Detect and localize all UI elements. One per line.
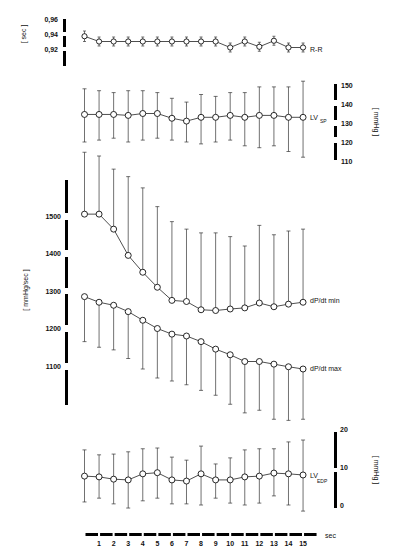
data-point xyxy=(82,34,87,39)
x-tick-label: 11 xyxy=(241,540,249,547)
data-point xyxy=(256,473,262,479)
unit-label: [ mmHg ] xyxy=(372,108,380,136)
data-point xyxy=(169,297,175,303)
data-point xyxy=(242,114,248,120)
y-tick-label: 1500 xyxy=(45,213,61,220)
data-point xyxy=(82,111,88,117)
series-line xyxy=(85,297,304,369)
axis-scale-bar xyxy=(65,220,68,250)
rr-interval-panel: 0,960,940,92[ sec ]R-R xyxy=(20,16,322,67)
x-tick-label: 4 xyxy=(141,540,145,547)
x-tick-label: 2 xyxy=(112,540,116,547)
time-axis-segment xyxy=(144,533,157,536)
data-point xyxy=(198,471,204,477)
data-point xyxy=(111,302,117,308)
series-line xyxy=(85,36,304,47)
y-tick-label: 10 xyxy=(340,464,348,471)
data-point xyxy=(111,111,117,117)
axis-scale-bar xyxy=(334,143,337,160)
data-point xyxy=(257,44,262,49)
data-point xyxy=(111,226,117,232)
series-line xyxy=(85,114,304,122)
axis-scale-bar xyxy=(334,126,337,137)
data-point xyxy=(125,477,131,483)
data-point xyxy=(154,284,160,290)
time-axis-segment xyxy=(217,533,230,536)
y-tick-label: 1400 xyxy=(45,250,61,257)
dpdt-panel: 15001400130012001100[ mmHg/sec ]dP/dt mi… xyxy=(22,152,342,420)
data-point xyxy=(242,305,248,311)
axis-scale-bar xyxy=(334,106,337,120)
data-point xyxy=(82,294,88,300)
data-point xyxy=(285,301,291,307)
y-tick-label: 0,92 xyxy=(44,46,58,54)
data-point xyxy=(256,300,262,306)
x-tick-label: 9 xyxy=(214,540,218,547)
data-point xyxy=(125,252,131,258)
time-axis-segment xyxy=(304,533,317,536)
x-tick-label: 15 xyxy=(299,540,307,547)
data-point xyxy=(300,45,305,50)
data-point xyxy=(300,114,306,120)
data-point xyxy=(111,476,117,482)
data-point xyxy=(140,269,146,275)
data-point xyxy=(169,331,175,337)
data-point xyxy=(198,114,204,120)
data-point xyxy=(198,339,204,345)
data-point xyxy=(183,478,189,484)
y-tick-label: 1200 xyxy=(45,325,61,332)
data-point xyxy=(300,472,306,478)
data-point xyxy=(96,474,102,480)
data-point xyxy=(213,346,219,352)
data-point xyxy=(271,38,276,43)
data-point xyxy=(213,39,218,44)
data-point xyxy=(256,359,262,365)
data-point xyxy=(227,306,233,312)
x-tick-label: 14 xyxy=(285,540,293,547)
data-point xyxy=(140,39,145,44)
data-point xyxy=(271,112,277,118)
series-line xyxy=(85,214,304,310)
x-tick-label: 1 xyxy=(97,540,101,547)
time-axis-segment xyxy=(289,533,302,536)
data-point xyxy=(184,39,189,44)
data-point xyxy=(183,118,189,124)
data-point xyxy=(154,111,160,117)
data-point xyxy=(126,39,131,44)
unit-label: [ mmHg ] xyxy=(372,456,380,484)
data-point xyxy=(155,39,160,44)
x-tick-label: 6 xyxy=(170,540,174,547)
x-tick-label: 13 xyxy=(270,540,278,547)
time-axis-segment xyxy=(115,533,128,536)
time-axis-segment xyxy=(187,533,200,536)
series-label-lvsp: LV xyxy=(310,114,318,121)
data-point xyxy=(285,114,291,120)
x-tick-label: 5 xyxy=(155,540,159,547)
data-point xyxy=(183,299,189,305)
x-tick-label: 12 xyxy=(255,540,263,547)
unit-label: [ sec ] xyxy=(20,25,28,44)
axis-scale-bar xyxy=(65,332,68,363)
x-tick-label: 7 xyxy=(185,540,189,547)
axis-scale-bar xyxy=(65,257,68,288)
time-axis: 123456789101112131415sec xyxy=(86,532,337,547)
axis-scale-bar xyxy=(63,19,66,32)
x-axis-label: sec xyxy=(325,532,336,539)
data-point xyxy=(111,39,116,44)
y-tick-label: 1100 xyxy=(46,363,61,370)
y-tick-label: 0 xyxy=(340,502,344,509)
data-point xyxy=(82,473,88,479)
data-point xyxy=(96,111,102,117)
time-axis-segment xyxy=(158,533,171,536)
data-point xyxy=(300,366,306,372)
data-point xyxy=(82,211,88,217)
time-axis-segment xyxy=(231,533,244,536)
lv-systolic-pressure-panel: 150140130120110[ mmHg ]LVSP xyxy=(82,81,381,165)
data-point xyxy=(213,477,219,483)
data-point xyxy=(154,326,160,332)
data-point xyxy=(198,307,204,313)
data-point xyxy=(96,211,102,217)
data-point xyxy=(300,299,306,305)
data-point xyxy=(140,317,146,323)
axis-scale-bar xyxy=(63,51,66,66)
